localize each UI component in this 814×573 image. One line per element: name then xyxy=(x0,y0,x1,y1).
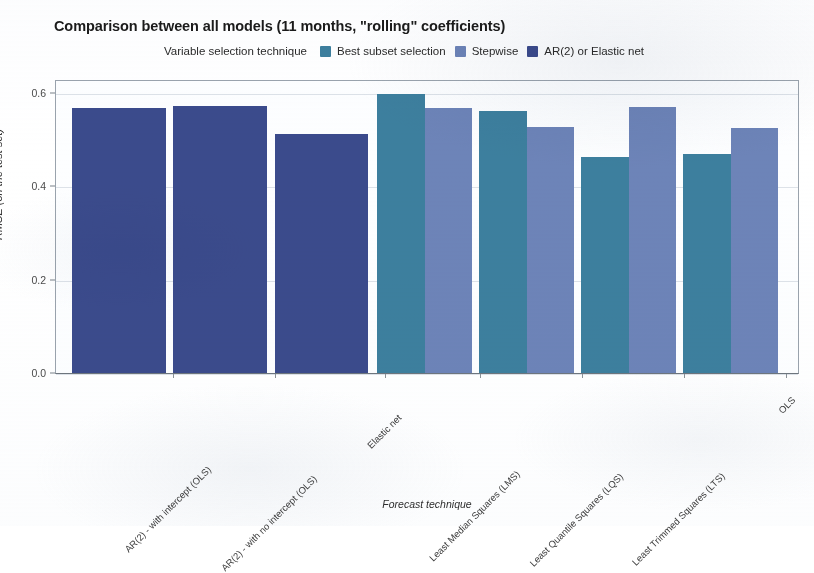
chart-legend: Variable selection technique Best subset… xyxy=(54,45,754,57)
y-tick-label: 0.2 xyxy=(31,274,46,286)
y-axis-title: RMSE (on the test set) xyxy=(0,129,4,240)
bar[interactable] xyxy=(377,94,425,373)
x-axis-title: Forecast technique xyxy=(55,498,799,510)
bar[interactable] xyxy=(581,157,629,373)
x-tick-mark xyxy=(582,374,583,378)
x-axis-tick-labels: AR(2) - with intercept (OLS)AR(2) - with… xyxy=(0,374,814,498)
bar[interactable] xyxy=(683,154,731,373)
y-tick-mark xyxy=(50,279,55,280)
x-tick-label: Elastic net xyxy=(365,412,404,451)
x-tick-mark xyxy=(786,374,787,378)
bar[interactable] xyxy=(425,108,472,373)
x-tick-mark xyxy=(480,374,481,378)
x-tick-label: Least Median Squares (LMS) xyxy=(427,468,522,563)
legend-entry[interactable]: Best subset selection xyxy=(320,45,446,57)
legend-label: AR(2) or Elastic net xyxy=(544,45,644,57)
y-tick-mark xyxy=(50,186,55,187)
x-tick-label: Least Quantile Squares (LQS) xyxy=(527,471,625,569)
bar[interactable] xyxy=(479,111,527,373)
y-axis: 0.00.20.40.6 xyxy=(0,80,55,376)
chart-title: Comparison between all models (11 months… xyxy=(54,18,505,34)
legend-entry[interactable]: AR(2) or Elastic net xyxy=(527,45,644,57)
x-tick-label: AR(2) - with no intercept (OLS) xyxy=(219,473,319,573)
plot-area xyxy=(55,80,799,374)
bar[interactable] xyxy=(731,128,778,373)
legend-swatch-icon xyxy=(527,46,538,57)
y-tick-label: 0.4 xyxy=(31,180,46,192)
legend-label: Stepwise xyxy=(472,45,519,57)
legend-swatch-icon xyxy=(455,46,466,57)
x-tick-mark xyxy=(385,374,386,378)
bar[interactable] xyxy=(72,108,166,373)
x-tick-mark xyxy=(684,374,685,378)
legend-label: Best subset selection xyxy=(337,45,446,57)
y-tick-mark xyxy=(50,93,55,94)
legend-title: Variable selection technique xyxy=(164,45,307,57)
x-tick-mark xyxy=(173,374,174,378)
bar[interactable] xyxy=(527,127,574,373)
x-tick-mark xyxy=(275,374,276,378)
bar-series-container xyxy=(56,81,798,373)
x-tick-label: OLS xyxy=(776,394,797,415)
bar[interactable] xyxy=(275,134,368,373)
bar[interactable] xyxy=(173,106,267,373)
legend-entry[interactable]: Stepwise xyxy=(455,45,519,57)
legend-swatch-icon xyxy=(320,46,331,57)
bar[interactable] xyxy=(629,107,676,373)
y-tick-label: 0.6 xyxy=(31,87,46,99)
x-tick-label: Least Trimmed Squares (LTS) xyxy=(630,470,727,567)
